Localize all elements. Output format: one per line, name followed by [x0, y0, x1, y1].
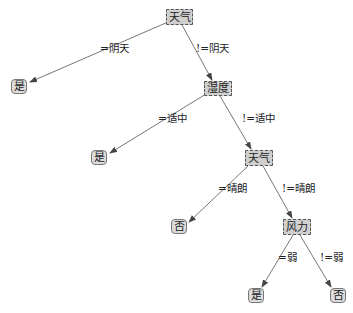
- edge-label: !=阴天: [196, 43, 229, 54]
- decision-node: 天气: [245, 150, 273, 166]
- node-label: 是: [251, 290, 262, 301]
- leaf-node: 否: [171, 219, 187, 234]
- leaf-node: 是: [11, 79, 27, 94]
- leaf-node: 否: [330, 288, 346, 303]
- edge-n0-n1: [30, 22, 168, 82]
- edge-label: =弱: [278, 252, 297, 263]
- node-label: 湿度: [207, 83, 229, 94]
- edge-label: =适中: [158, 113, 187, 124]
- node-label: 否: [174, 221, 185, 232]
- node-label: 风力: [286, 222, 308, 233]
- decision-node: 湿度: [204, 81, 232, 96]
- edge-label: !=晴朗: [282, 183, 315, 194]
- edge-n4-n5: [189, 166, 248, 222]
- node-label: 天气: [169, 12, 191, 23]
- node-label: 否: [333, 290, 344, 301]
- edge-label: =晴朗: [218, 183, 247, 194]
- edge-label: !=适中: [242, 113, 275, 124]
- decision-node: 风力: [283, 219, 311, 235]
- leaf-node: 是: [248, 288, 264, 303]
- edge-label: !=弱: [320, 252, 343, 263]
- leaf-node: 是: [91, 150, 107, 165]
- node-label: 是: [14, 81, 25, 92]
- edge-label: =阴天: [100, 43, 129, 54]
- node-label: 天气: [248, 153, 270, 164]
- node-label: 是: [94, 152, 105, 163]
- decision-node: 天气: [166, 9, 193, 25]
- edges-layer: [0, 0, 353, 313]
